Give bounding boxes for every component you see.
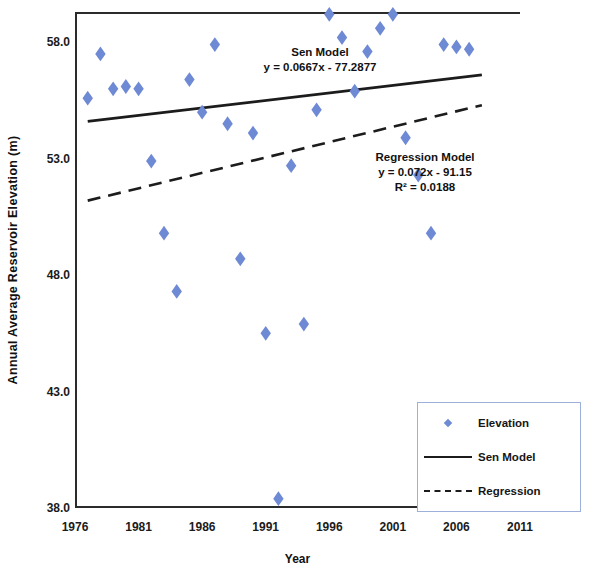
regression-model-annotation-title: Regression Model (320, 150, 530, 165)
legend-key-elevation (418, 409, 478, 437)
data-point-marker (133, 81, 143, 96)
diamond-marker-icon (444, 419, 452, 427)
y-axis-tick-label: 48.0 (22, 268, 70, 282)
x-axis-tick-label: 2011 (490, 520, 550, 534)
legend-key-regression (418, 477, 478, 505)
legend-key-sen-model (418, 443, 478, 471)
solid-line-icon (424, 456, 472, 458)
data-point-marker (222, 116, 232, 131)
data-point-marker (108, 81, 118, 96)
y-axis-tick-label: 53.0 (22, 152, 70, 166)
x-axis-tick-label: 1976 (45, 520, 105, 534)
chart-legend: Elevation Sen Model Regression (417, 402, 581, 512)
data-point-marker (311, 102, 321, 117)
x-axis-tick-label: 2001 (363, 520, 423, 534)
x-axis-tick-label: 2006 (426, 520, 486, 534)
data-point-marker (95, 47, 105, 62)
data-point-marker (286, 158, 296, 173)
x-axis-tick-label: 1981 (109, 520, 169, 534)
data-point-marker (261, 326, 271, 341)
data-point-marker (375, 21, 385, 36)
data-point-marker (121, 79, 131, 94)
data-point-marker (210, 37, 220, 52)
data-point-marker (159, 226, 169, 241)
regression-model-annotation-rsquared: R² = 0.0188 (320, 180, 530, 195)
data-point-marker (83, 91, 93, 106)
x-axis-tick-label: 1991 (236, 520, 296, 534)
regression-model-annotation: Regression Model y = 0.072x - 91.15 R² =… (320, 150, 530, 196)
legend-item-sen-model: Sen Model (418, 443, 582, 471)
data-point-marker (248, 126, 258, 141)
trend-line-sen-model (88, 75, 482, 122)
sen-model-annotation-title: Sen Model (220, 45, 420, 60)
y-axis-tick-label: 38.0 (22, 501, 70, 515)
scatter-chart-figure: Annual Average Reservoir Elevation (m) 5… (0, 0, 589, 578)
data-point-marker (172, 284, 182, 299)
y-axis-tick-label: 58.0 (22, 35, 70, 49)
y-axis-tick-labels: 58.053.048.043.038.0 (14, 0, 70, 578)
sen-model-annotation-equation: y = 0.0667x - 77.2877 (220, 60, 420, 75)
x-axis-tick-labels: 19761981198619911996200120062011 (0, 520, 589, 542)
regression-model-annotation-equation: y = 0.072x - 91.15 (320, 165, 530, 180)
data-point-marker (464, 42, 474, 57)
data-point-marker (400, 130, 410, 145)
y-axis-tick-label: 43.0 (22, 385, 70, 399)
legend-label-elevation: Elevation (478, 417, 529, 429)
data-point-marker (146, 154, 156, 169)
legend-label-sen-model: Sen Model (478, 451, 536, 463)
dashed-line-icon (424, 490, 472, 492)
data-point-marker (451, 40, 461, 55)
data-point-marker (324, 7, 334, 22)
data-point-marker (235, 251, 245, 266)
data-point-marker (184, 72, 194, 87)
data-point-marker (299, 317, 309, 332)
data-point-marker (350, 84, 360, 99)
x-axis-tick-label: 1986 (172, 520, 232, 534)
legend-item-elevation: Elevation (418, 409, 582, 437)
data-point-marker (337, 30, 347, 45)
legend-item-regression: Regression (418, 477, 582, 505)
data-point-marker (426, 226, 436, 241)
data-point-marker (388, 7, 398, 22)
x-axis-title: Year (75, 552, 520, 566)
data-point-marker (273, 491, 283, 506)
x-axis-tick-label: 1996 (299, 520, 359, 534)
legend-label-regression: Regression (478, 485, 541, 497)
data-point-marker (439, 37, 449, 52)
sen-model-annotation: Sen Model y = 0.0667x - 77.2877 (220, 45, 420, 75)
